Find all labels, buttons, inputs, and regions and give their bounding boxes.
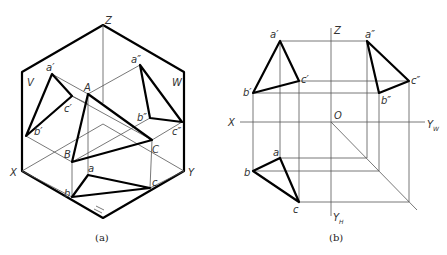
label-a-prime-a: a′	[46, 62, 55, 73]
label-v-plane: V	[27, 77, 35, 88]
label-w-plane: W	[172, 77, 183, 88]
triangle-top-view	[253, 158, 299, 202]
diagram-canvas: Z V W X Y A B C a′ b′ c′ a″ b″ c″ a b c …	[0, 0, 447, 255]
label-z-b: Z	[333, 25, 342, 36]
label-c-h-a: c	[152, 177, 158, 188]
caption-b: (b)	[329, 232, 343, 243]
axis-45-diagonal	[331, 122, 417, 210]
label-a-dprime-a: a″	[131, 54, 141, 65]
h-plane-symbol	[94, 206, 104, 213]
label-a-h-b: a	[273, 147, 279, 158]
triangle-abc-space	[72, 94, 152, 162]
label-b-prime-b: b′	[243, 87, 252, 98]
label-a-dprime-b: a″	[365, 29, 375, 40]
label-b-dprime-a: b″	[137, 112, 147, 123]
triangle-side-view	[367, 41, 409, 93]
label-x-a: X	[9, 167, 18, 178]
label-point-A: A	[83, 82, 91, 93]
label-y-a: Y	[188, 167, 195, 178]
label-c-dprime-b: c″	[411, 75, 420, 86]
label-x-b: X	[227, 117, 236, 128]
label-b-dprime-b: b″	[381, 95, 391, 106]
figure-a: Z V W X Y A B C a′ b′ c′ a″ b″ c″ a b c …	[9, 15, 195, 243]
label-z-a: Z	[104, 15, 113, 26]
label-point-C: C	[152, 144, 159, 155]
label-a-h-a: a	[88, 163, 94, 174]
label-b-h-b: b	[244, 167, 250, 178]
label-a-prime-b: a′	[270, 29, 279, 40]
triangle-h-projection	[72, 175, 150, 197]
label-c-dprime-a: c″	[172, 126, 181, 137]
label-b-h-a: b	[64, 188, 70, 199]
figure-b: Z X O YW YH a′ b′ c′ a″ b″ c″ a b c (b)	[227, 25, 440, 243]
label-c-prime-a: c′	[64, 103, 72, 114]
label-origin-o: O	[334, 110, 342, 121]
label-yw: YW	[427, 119, 440, 132]
label-c-h-b: c	[293, 204, 299, 215]
label-point-B: B	[64, 149, 71, 160]
label-c-prime-b: c′	[301, 74, 309, 85]
caption-a: (a)	[95, 232, 109, 243]
label-b-prime-a: b′	[34, 126, 43, 137]
triangle-front-view	[253, 41, 299, 93]
label-yh: YH	[333, 212, 344, 225]
